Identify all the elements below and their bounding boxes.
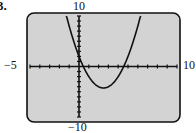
graphing-calculator-screen: [0, 0, 196, 133]
